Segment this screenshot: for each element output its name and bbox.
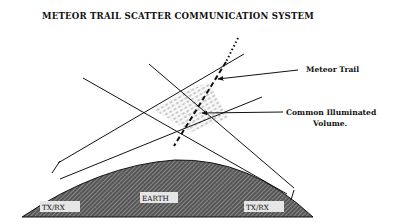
meteor-trail-label: Meteor Trail — [306, 65, 359, 74]
right-station-label: TX/RX — [246, 203, 270, 212]
volume-label-line2: Volume. — [312, 119, 348, 128]
left-station-label: TX/RX — [42, 203, 66, 212]
meteor-trail-leader — [218, 70, 298, 79]
right-antenna — [291, 190, 294, 200]
earth-label: EARTH — [142, 194, 169, 203]
common-illuminated-volume — [152, 82, 228, 132]
volume-label-line1: Common Illuminated — [286, 108, 377, 117]
left-antenna — [52, 161, 60, 173]
meteor-scatter-diagram: Meteor Trail Common Illuminated Volume. … — [0, 0, 405, 224]
